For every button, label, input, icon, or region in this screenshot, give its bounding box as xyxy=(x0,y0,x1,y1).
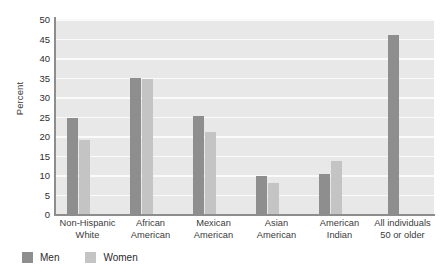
bar-men[interactable] xyxy=(256,176,267,214)
bar-group xyxy=(371,19,434,214)
bar-men[interactable] xyxy=(388,35,399,214)
plot-area: 05101520253035404550 xyxy=(56,19,434,214)
bar-women[interactable] xyxy=(205,132,216,214)
legend-item-women[interactable]: Women xyxy=(85,252,137,263)
legend-label-men: Men xyxy=(40,252,59,263)
x-axis-label: All individuals 50 or older xyxy=(359,218,441,241)
legend-swatch-women xyxy=(85,252,96,263)
y-tick-label: 20 xyxy=(4,131,50,142)
x-axis-line xyxy=(54,214,435,216)
legend-item-men[interactable]: Men xyxy=(22,252,59,263)
bar-group xyxy=(308,19,371,214)
bar-men[interactable] xyxy=(67,118,78,214)
bar-group xyxy=(56,19,119,214)
bar-women[interactable] xyxy=(268,183,279,214)
y-tick-label: 40 xyxy=(4,53,50,64)
bar-group xyxy=(245,19,308,214)
y-tick-label: 50 xyxy=(4,14,50,25)
legend-swatch-men xyxy=(22,252,33,263)
y-tick-label: 45 xyxy=(4,33,50,44)
chart-legend: Men Women xyxy=(22,252,138,263)
bar-men[interactable] xyxy=(130,78,141,215)
y-tick-label: 5 xyxy=(4,189,50,200)
y-tick-label: 30 xyxy=(4,92,50,103)
y-tick-label: 25 xyxy=(4,111,50,122)
legend-label-women: Women xyxy=(103,252,137,263)
bar-women[interactable] xyxy=(79,140,90,214)
bar-group xyxy=(182,19,245,214)
y-tick-label: 35 xyxy=(4,72,50,83)
bar-group xyxy=(119,19,182,214)
bar-women[interactable] xyxy=(331,161,342,214)
bar-women[interactable] xyxy=(142,79,153,214)
bar-chart: Percent 05101520253035404550 Non-Hispani… xyxy=(0,0,441,273)
y-tick-label: 15 xyxy=(4,150,50,161)
bar-men[interactable] xyxy=(319,174,330,214)
bar-men[interactable] xyxy=(193,116,204,214)
y-tick-label: 10 xyxy=(4,170,50,181)
